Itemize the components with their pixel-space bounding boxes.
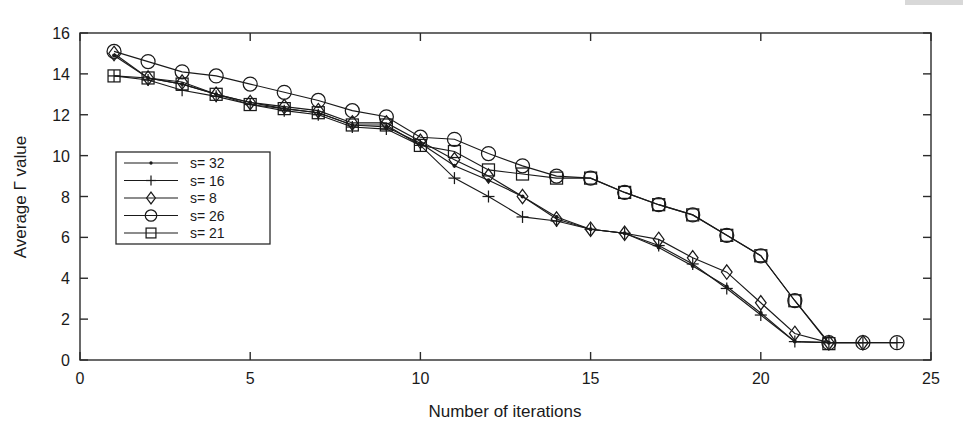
y-tick-label: 10 (52, 148, 70, 165)
x-tick-label: 10 (412, 370, 430, 387)
x-axis-tick-labels: 0510152025 (76, 370, 940, 387)
y-tick-label: 16 (52, 25, 70, 42)
x-tick-label: 0 (76, 370, 85, 387)
legend-label: s= 26 (190, 208, 225, 224)
y-axis-tick-labels: 0246810121416 (52, 25, 70, 369)
chart-legend: s= 32s= 16s= 8s= 26s= 21 (116, 152, 270, 244)
y-tick-label: 4 (61, 270, 70, 287)
x-tick-label: 20 (752, 370, 770, 387)
data-point-plus (482, 191, 494, 203)
legend-label: s= 8 (190, 190, 217, 206)
scan-edge-artifact (905, 0, 963, 5)
y-tick-label: 0 (61, 352, 70, 369)
x-tick-label: 25 (922, 370, 940, 387)
data-point-dot (149, 161, 152, 164)
line-chart: 0510152025 0246810121416 Number of itera… (0, 0, 963, 430)
y-tick-label: 2 (61, 311, 70, 328)
y-tick-label: 8 (61, 189, 70, 206)
chart-figure: 0510152025 0246810121416 Number of itera… (0, 0, 963, 430)
y-tick-label: 6 (61, 229, 70, 246)
x-tick-label: 15 (582, 370, 600, 387)
y-tick-label: 14 (52, 66, 70, 83)
data-point-plus (517, 211, 529, 223)
y-tick-label: 12 (52, 107, 70, 124)
x-axis-title: Number of iterations (428, 402, 581, 421)
y-axis-title: Average Γ value (11, 136, 30, 258)
legend-label: s= 16 (190, 173, 225, 189)
legend-label: s= 21 (190, 225, 225, 241)
x-tick-label: 5 (246, 370, 255, 387)
legend-label: s= 32 (190, 155, 225, 171)
